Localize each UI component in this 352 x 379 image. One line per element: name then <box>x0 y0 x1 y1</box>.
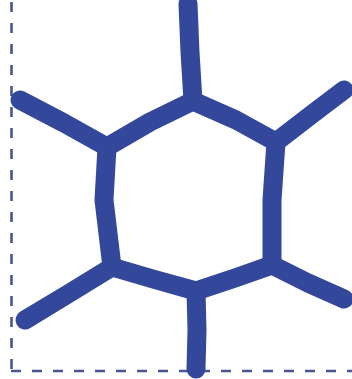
bond-top-stem <box>188 4 193 101</box>
ring-edge-left <box>104 147 112 267</box>
ring-edge-top-left <box>107 101 193 147</box>
ring-edge-bottom-left <box>112 267 196 291</box>
bond-lower-left-arm <box>25 267 112 320</box>
bond-upper-right-arm <box>276 90 344 142</box>
bond-upper-left-arm <box>20 100 107 147</box>
bond-lower-right-arm <box>272 265 344 299</box>
ring-edge-right <box>272 142 276 265</box>
bond-bottom-stem <box>196 291 197 369</box>
ring-edge-top-right <box>193 101 276 142</box>
sketch-canvas <box>0 0 352 379</box>
ring-edge-bottom-right <box>196 265 272 291</box>
sketch-svg <box>0 0 352 379</box>
molecule-ink-strokes <box>20 4 344 369</box>
